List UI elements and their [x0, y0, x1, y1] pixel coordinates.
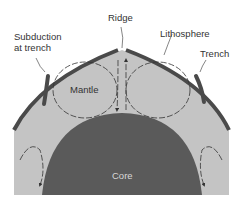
core-label: Core [112, 170, 133, 181]
trench-label: Trench [200, 48, 229, 59]
ridge-label: Ridge [108, 12, 133, 23]
lithosphere-label: Lithosphere [160, 28, 210, 39]
mantle-label: Mantle [70, 84, 99, 95]
subduction-label-line1: Subduction [14, 31, 62, 42]
subduction-label-line2: at trench [14, 42, 51, 53]
